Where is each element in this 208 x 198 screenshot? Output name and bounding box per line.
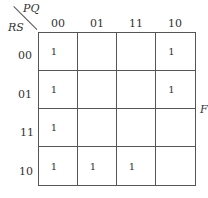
cell-value: 1 [51,122,57,133]
cell-00-01 [78,33,117,71]
col-header-1: 01 [90,18,104,30]
cell-10-11: 1 [117,147,156,185]
cell-11-10 [156,109,195,147]
cell-01-01 [78,71,117,109]
cell-00-10: 1 [156,33,195,71]
cell-value: 1 [168,84,174,95]
cell-00-00: 1 [39,33,78,71]
col-header-0: 00 [51,18,65,30]
cell-11-11 [117,109,156,147]
cell-10-01: 1 [78,147,117,185]
cell-10-10 [156,147,195,185]
cell-00-11 [117,33,156,71]
output-label: F [200,104,208,116]
cell-01-11 [117,71,156,109]
cell-10-00: 1 [39,147,78,185]
cell-11-00: 1 [39,109,78,147]
row-var-label: RS [8,22,24,34]
cell-value: 1 [51,161,57,172]
cell-value: 1 [51,84,57,95]
row-header-1: 01 [18,89,32,101]
col-header-3: 10 [168,18,182,30]
cell-11-01 [78,109,117,147]
col-header-2: 11 [129,18,143,30]
row-header-2: 11 [20,127,34,139]
cell-value: 1 [51,46,57,57]
cell-value: 1 [90,161,96,172]
col-var-label: PQ [23,3,39,15]
row-header-0: 00 [18,50,32,62]
cell-01-00: 1 [39,71,78,109]
cell-value: 1 [168,46,174,57]
row-header-3: 10 [19,166,33,178]
cell-01-10: 1 [156,71,195,109]
cell-value: 1 [129,161,135,172]
kmap-grid: 1 1 1 1 1 1 1 1 [38,32,196,186]
